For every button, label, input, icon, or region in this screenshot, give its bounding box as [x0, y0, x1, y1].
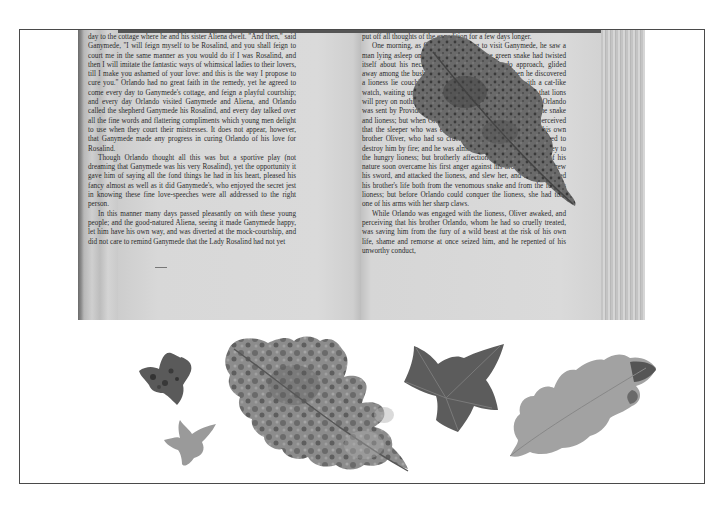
- paragraph: While Orlando was engaged with the lione…: [362, 210, 566, 256]
- ivy-leaf-icon: [402, 340, 506, 432]
- paragraph: day to the cottage where he and his sist…: [88, 33, 296, 154]
- paragraph: In this manner many days passed pleasant…: [88, 210, 296, 247]
- paragraph: Though Orlando thought all this was but …: [88, 154, 296, 210]
- oak-leaf-on-book-icon: [405, 32, 585, 212]
- page-number-mark: [155, 267, 167, 268]
- large-oak-leaf-icon: [224, 335, 414, 475]
- page-edges-right: [601, 30, 645, 320]
- oak-leaf-right-icon: [506, 348, 658, 458]
- left-page-text: day to the cottage where he and his sist…: [88, 33, 296, 247]
- small-ivy-leaf-dark-icon: [137, 349, 195, 407]
- small-ivy-leaf-light-icon: [162, 418, 218, 468]
